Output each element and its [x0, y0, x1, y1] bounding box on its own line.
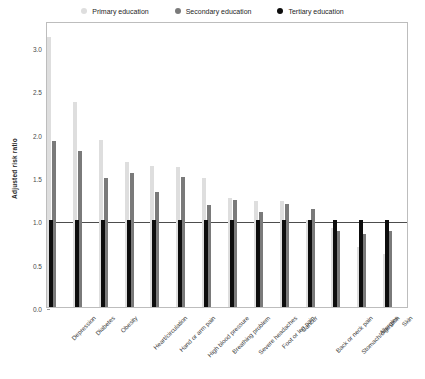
- bar-group: [331, 23, 357, 307]
- y-tick-label: 2.0: [33, 132, 47, 139]
- y-tick-label: 2.5: [33, 89, 47, 96]
- y-tick-label: 0.0: [33, 306, 47, 313]
- bar-groups: [47, 23, 407, 307]
- bar-tertiary: [101, 220, 105, 307]
- bar-group: [383, 23, 409, 307]
- bar-group: [73, 23, 99, 307]
- legend-label: Secondary education: [186, 8, 252, 15]
- y-axis-title: Adjusted risk ratio: [6, 108, 22, 228]
- legend-item-2: Tertiary education: [277, 8, 343, 15]
- figure: Adjusted risk ratio Primary educationSec…: [0, 0, 425, 379]
- legend-item-1: Secondary education: [175, 8, 252, 15]
- legend-label: Primary education: [92, 8, 148, 15]
- bar-tertiary: [49, 220, 53, 307]
- bar-tertiary: [333, 220, 337, 307]
- bar-tertiary: [282, 220, 286, 307]
- x-tick-label: Allergies: [378, 314, 400, 336]
- legend-item-0: Primary education: [81, 8, 148, 15]
- bar-group: [254, 23, 280, 307]
- y-tick-label: 1.5: [33, 176, 47, 183]
- bar-group: [47, 23, 73, 307]
- chart-legend: Primary educationSecondary educationTert…: [0, 3, 425, 19]
- bar-tertiary: [359, 220, 363, 307]
- legend-label: Tertiary education: [288, 8, 343, 15]
- bar-group: [176, 23, 202, 307]
- legend-swatch-icon: [277, 8, 283, 14]
- y-tick-label: 1.0: [33, 219, 47, 226]
- bar-tertiary: [75, 220, 79, 307]
- plot-area: 0.00.51.01.52.02.53.0: [46, 22, 408, 308]
- x-axis-ticks: DepressionDiabetesObesityHeart/circulati…: [46, 310, 408, 379]
- bar-group: [150, 23, 176, 307]
- bar-tertiary: [256, 220, 260, 307]
- y-tick-label: 3.0: [33, 46, 47, 53]
- bar-tertiary: [152, 220, 156, 307]
- bar-tertiary: [127, 220, 131, 307]
- x-tick-label: Diabetes: [94, 314, 116, 336]
- bar-tertiary: [230, 220, 234, 307]
- bar-group: [306, 23, 332, 307]
- legend-swatch-icon: [81, 8, 87, 14]
- bar-group: [99, 23, 125, 307]
- bar-tertiary: [308, 220, 312, 307]
- bar-tertiary: [385, 220, 389, 307]
- legend-swatch-icon: [175, 8, 181, 14]
- x-tick-label: Depression: [70, 314, 97, 341]
- bar-group: [202, 23, 228, 307]
- bar-tertiary: [204, 220, 208, 307]
- bar-group: [280, 23, 306, 307]
- y-axis-title-text: Adjusted risk ratio: [11, 138, 18, 199]
- x-tick-label: Skin: [400, 314, 413, 327]
- bar-group: [357, 23, 383, 307]
- bar-group: [125, 23, 151, 307]
- bar-group: [228, 23, 254, 307]
- y-tick-label: 0.5: [33, 262, 47, 269]
- bar-tertiary: [178, 220, 182, 307]
- x-tick-label: Obesity: [119, 314, 139, 334]
